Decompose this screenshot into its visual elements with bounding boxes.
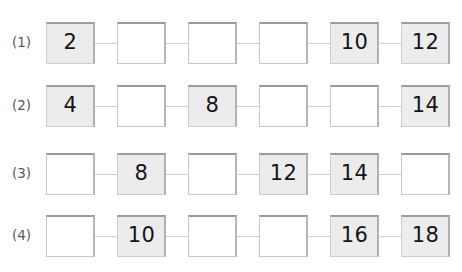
connector-line bbox=[379, 236, 401, 237]
box-face bbox=[330, 85, 379, 127]
number-chain: 101618 bbox=[46, 212, 450, 260]
box-value: 8 bbox=[135, 163, 149, 186]
box-value: 2 bbox=[64, 32, 78, 55]
box-face bbox=[259, 85, 308, 127]
box-face bbox=[401, 153, 450, 195]
number-box-filled[interactable]: 14 bbox=[330, 153, 379, 195]
connector-line bbox=[379, 43, 401, 44]
box-face bbox=[46, 153, 95, 195]
number-box-blank[interactable] bbox=[259, 22, 308, 64]
worksheet: (1)21012(2)4814(3)81214(4)101618 bbox=[0, 0, 462, 272]
box-value: 14 bbox=[412, 95, 440, 118]
chain-row: (4)101618 bbox=[0, 212, 462, 260]
connector-line bbox=[237, 236, 259, 237]
box-face bbox=[188, 153, 237, 195]
box-face bbox=[117, 85, 166, 127]
box-face bbox=[117, 22, 166, 64]
box-value: 12 bbox=[412, 32, 440, 55]
box-value: 18 bbox=[412, 225, 440, 248]
row-number-label: (1) bbox=[12, 36, 42, 50]
box-value: 10 bbox=[128, 225, 156, 248]
box-value: 16 bbox=[341, 225, 369, 248]
row-number-label: (2) bbox=[12, 99, 42, 113]
number-box-filled[interactable]: 2 bbox=[46, 22, 95, 64]
number-box-blank[interactable] bbox=[188, 22, 237, 64]
number-box-filled[interactable]: 12 bbox=[259, 153, 308, 195]
number-box-blank[interactable] bbox=[46, 215, 95, 257]
chain-row: (1)21012 bbox=[0, 19, 462, 67]
connector-line bbox=[308, 43, 330, 44]
number-box-blank[interactable] bbox=[188, 215, 237, 257]
number-box-blank[interactable] bbox=[330, 85, 379, 127]
number-box-blank[interactable] bbox=[117, 22, 166, 64]
connector-line bbox=[95, 174, 117, 175]
number-box-filled[interactable]: 8 bbox=[117, 153, 166, 195]
box-face bbox=[259, 22, 308, 64]
number-box-blank[interactable] bbox=[259, 85, 308, 127]
connector-line bbox=[308, 236, 330, 237]
number-box-filled[interactable]: 14 bbox=[401, 85, 450, 127]
number-chain: 4814 bbox=[46, 82, 450, 130]
connector-line bbox=[95, 106, 117, 107]
box-value: 10 bbox=[341, 32, 369, 55]
box-value: 12 bbox=[270, 163, 298, 186]
connector-line bbox=[379, 106, 401, 107]
connector-line bbox=[308, 174, 330, 175]
number-box-filled[interactable]: 8 bbox=[188, 85, 237, 127]
box-face bbox=[188, 215, 237, 257]
number-box-blank[interactable] bbox=[188, 153, 237, 195]
connector-line bbox=[95, 236, 117, 237]
number-box-filled[interactable]: 4 bbox=[46, 85, 95, 127]
box-value: 14 bbox=[341, 163, 369, 186]
number-box-filled[interactable]: 18 bbox=[401, 215, 450, 257]
number-box-filled[interactable]: 10 bbox=[117, 215, 166, 257]
connector-line bbox=[166, 174, 188, 175]
chain-row: (2)4814 bbox=[0, 82, 462, 130]
number-box-filled[interactable]: 10 bbox=[330, 22, 379, 64]
box-face bbox=[259, 215, 308, 257]
number-box-filled[interactable]: 12 bbox=[401, 22, 450, 64]
number-box-filled[interactable]: 16 bbox=[330, 215, 379, 257]
box-face bbox=[46, 215, 95, 257]
number-chain: 81214 bbox=[46, 150, 450, 198]
connector-line bbox=[237, 43, 259, 44]
number-box-blank[interactable] bbox=[401, 153, 450, 195]
chain-row: (3)81214 bbox=[0, 150, 462, 198]
connector-line bbox=[166, 236, 188, 237]
connector-line bbox=[379, 174, 401, 175]
connector-line bbox=[166, 106, 188, 107]
row-number-label: (4) bbox=[12, 229, 42, 243]
connector-line bbox=[237, 106, 259, 107]
connector-line bbox=[166, 43, 188, 44]
number-box-blank[interactable] bbox=[259, 215, 308, 257]
connector-line bbox=[308, 106, 330, 107]
number-box-blank[interactable] bbox=[117, 85, 166, 127]
box-value: 4 bbox=[64, 95, 78, 118]
number-box-blank[interactable] bbox=[46, 153, 95, 195]
number-chain: 21012 bbox=[46, 19, 450, 67]
box-face bbox=[188, 22, 237, 64]
connector-line bbox=[95, 43, 117, 44]
row-number-label: (3) bbox=[12, 167, 42, 181]
connector-line bbox=[237, 174, 259, 175]
box-value: 8 bbox=[206, 95, 220, 118]
